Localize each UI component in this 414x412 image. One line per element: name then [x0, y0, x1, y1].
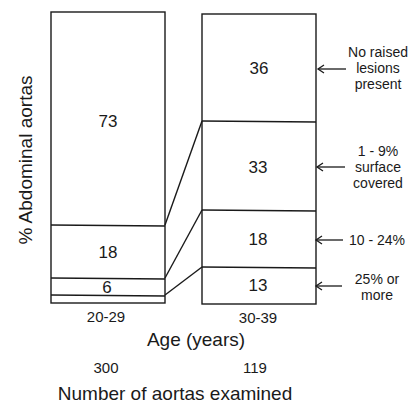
- svg-text:1 - 9%: 1 - 9%: [358, 143, 398, 159]
- y-axis-title: % Abdominal aortas: [15, 76, 36, 245]
- svg-text:more: more: [361, 287, 393, 303]
- segment-label: 36: [250, 59, 269, 78]
- count-label: 300: [93, 359, 118, 376]
- segment-divider: [202, 210, 316, 211]
- legend-10-24-percent: 10 - 24%: [349, 232, 405, 248]
- svg-text:10 - 24%: 10 - 24%: [349, 232, 405, 248]
- segment-label: 18: [249, 230, 268, 249]
- segment-divider: [51, 225, 165, 226]
- count-axis-title: Number of aortas examined: [58, 383, 292, 404]
- legend-25-percent-or-more: 25% or more: [355, 271, 400, 303]
- segment-label: 18: [99, 243, 118, 262]
- segment-divider: [202, 267, 316, 268]
- count-label: 119: [243, 359, 267, 376]
- segment-label: 13: [249, 276, 268, 295]
- x-axis-title: Age (years): [147, 329, 245, 350]
- segment-divider: [202, 121, 316, 122]
- x-tick-label: 30-39: [239, 309, 277, 326]
- legend-arrows: [316, 65, 346, 290]
- svg-text:No raised: No raised: [348, 44, 408, 60]
- svg-text:lesions: lesions: [356, 60, 400, 76]
- segment-label: 33: [249, 158, 268, 177]
- connector-lines: [165, 121, 202, 295]
- segment-label: 73: [99, 112, 118, 131]
- x-tick-label: 20-29: [87, 308, 125, 325]
- segment-label: 6: [102, 278, 111, 297]
- legend-1-9-percent: 1 - 9% surface covered: [353, 143, 403, 191]
- svg-text:surface: surface: [355, 159, 401, 175]
- svg-text:25% or: 25% or: [355, 271, 400, 287]
- stacked-bar-chart: 73 18 6 36 33 18 13 20-29 30-39 Age (yea…: [0, 0, 414, 412]
- svg-text:covered: covered: [353, 175, 403, 191]
- svg-text:present: present: [355, 76, 402, 92]
- legend-no-raised-lesions: No raised lesions present: [348, 44, 408, 92]
